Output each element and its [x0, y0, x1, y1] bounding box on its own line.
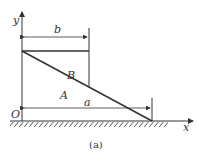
x-axis-label: x [183, 121, 190, 134]
y-axis-label: y [12, 14, 20, 27]
dimension-a-label: a [84, 96, 91, 109]
dimension-b-label: b [54, 23, 61, 36]
diagram-canvas: y x O b a B A (a) [0, 0, 199, 162]
ground-hatching [10, 122, 168, 127]
diagonal-line [22, 51, 152, 121]
origin-label: O [11, 108, 20, 121]
region-a-label: A [59, 89, 68, 102]
figure-caption: (a) [89, 139, 103, 150]
region-b-label: B [66, 69, 75, 82]
